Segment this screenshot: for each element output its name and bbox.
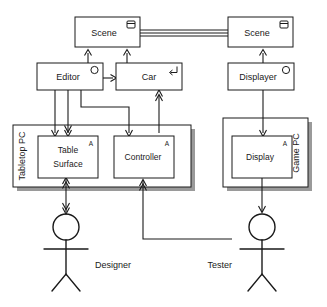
node-label-displayer: Displayer bbox=[239, 72, 277, 82]
node-label-editor: Editor bbox=[56, 72, 80, 82]
diagram-canvas: Tabletop PC Game PC bbox=[0, 0, 327, 307]
connector-editor-to-scene bbox=[85, 50, 92, 64]
actor-tester[interactable]: Tester bbox=[207, 214, 284, 291]
component-diagram: Tabletop PC Game PC bbox=[0, 0, 327, 307]
node-table-surface[interactable]: Table Surface A bbox=[38, 136, 98, 178]
node-displayer[interactable]: Displayer bbox=[228, 63, 294, 90]
actor-label-designer: Designer bbox=[95, 260, 131, 270]
designer-legs bbox=[52, 274, 80, 291]
designer-head-icon bbox=[53, 214, 79, 240]
tester-legs bbox=[248, 274, 276, 291]
node-label-scene-right: Scene bbox=[244, 28, 270, 38]
tester-head-icon bbox=[249, 214, 275, 240]
node-scene-left[interactable]: Scene bbox=[75, 17, 140, 47]
connector-table-surface-to-designer bbox=[63, 178, 70, 215]
marker-active-controller: A bbox=[165, 140, 170, 147]
container-label-tabletop-pc: Tabletop PC bbox=[17, 131, 27, 181]
connector-car-to-scene bbox=[124, 50, 131, 64]
connector-editor-to-car bbox=[103, 75, 117, 82]
node-label-controller: Controller bbox=[125, 152, 162, 162]
actor-label-tester: Tester bbox=[207, 260, 232, 270]
node-label-scene-left: Scene bbox=[91, 28, 117, 38]
node-label-car: Car bbox=[142, 72, 157, 82]
connector-scene-to-scene bbox=[140, 30, 228, 36]
node-controller[interactable]: Controller A bbox=[114, 136, 174, 178]
node-label-table-surface-line2: Surface bbox=[53, 159, 83, 169]
actor-designer[interactable]: Designer bbox=[44, 214, 131, 291]
node-label-display: Display bbox=[246, 152, 275, 162]
node-editor[interactable]: Editor bbox=[37, 63, 103, 90]
connector-displayer-to-scene bbox=[260, 50, 267, 64]
node-display[interactable]: Display A bbox=[232, 136, 292, 178]
node-scene-right[interactable]: Scene bbox=[228, 17, 293, 47]
marker-active-table-surface: A bbox=[89, 140, 94, 147]
marker-active-display: A bbox=[283, 140, 288, 147]
node-car[interactable]: Car bbox=[116, 63, 182, 90]
node-label-table-surface-line1: Table bbox=[58, 145, 79, 155]
